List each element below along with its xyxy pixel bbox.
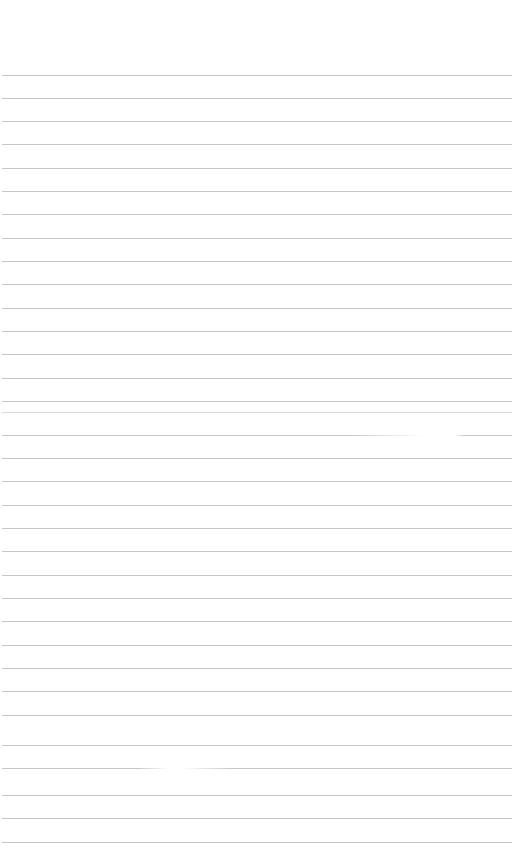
rule-line (2, 528, 512, 529)
rule-line (2, 284, 512, 285)
rule-line (2, 401, 512, 402)
rule-line (2, 98, 512, 99)
rule-line (2, 238, 512, 239)
rule-line (2, 691, 512, 692)
rule-line (2, 621, 512, 622)
rule-line-segment (182, 768, 512, 769)
rule-line (2, 575, 512, 576)
rule-line (2, 261, 512, 262)
rule-line-segment (2, 768, 168, 769)
left-margin-area (0, 0, 2, 864)
rule-line (2, 481, 512, 482)
rule-line (2, 818, 512, 819)
rule-line (2, 458, 512, 459)
paper-background (0, 0, 524, 864)
rule-line (2, 121, 512, 122)
rule-line (2, 598, 512, 599)
rule-line (2, 668, 512, 669)
rule-line (2, 412, 512, 413)
rule-line-segment (455, 435, 512, 436)
rule-line (2, 715, 512, 716)
rule-line (2, 168, 512, 169)
right-margin-area (512, 0, 524, 864)
rule-line (2, 505, 512, 506)
rule-line (2, 842, 512, 843)
rule-line (2, 354, 512, 355)
rule-line (2, 75, 512, 76)
rule-line (2, 331, 512, 332)
rule-line (2, 551, 512, 552)
rule-line (2, 308, 512, 309)
rule-line (2, 378, 512, 379)
top-margin-area (0, 0, 524, 75)
rule-line (2, 795, 512, 796)
rule-line (2, 144, 512, 145)
rule-line (2, 191, 512, 192)
bottom-margin-area (0, 843, 524, 864)
rule-line-segment (2, 435, 425, 436)
scanned-page (0, 0, 524, 864)
rule-line (2, 214, 512, 215)
rule-line (2, 745, 512, 746)
rule-line (2, 645, 512, 646)
